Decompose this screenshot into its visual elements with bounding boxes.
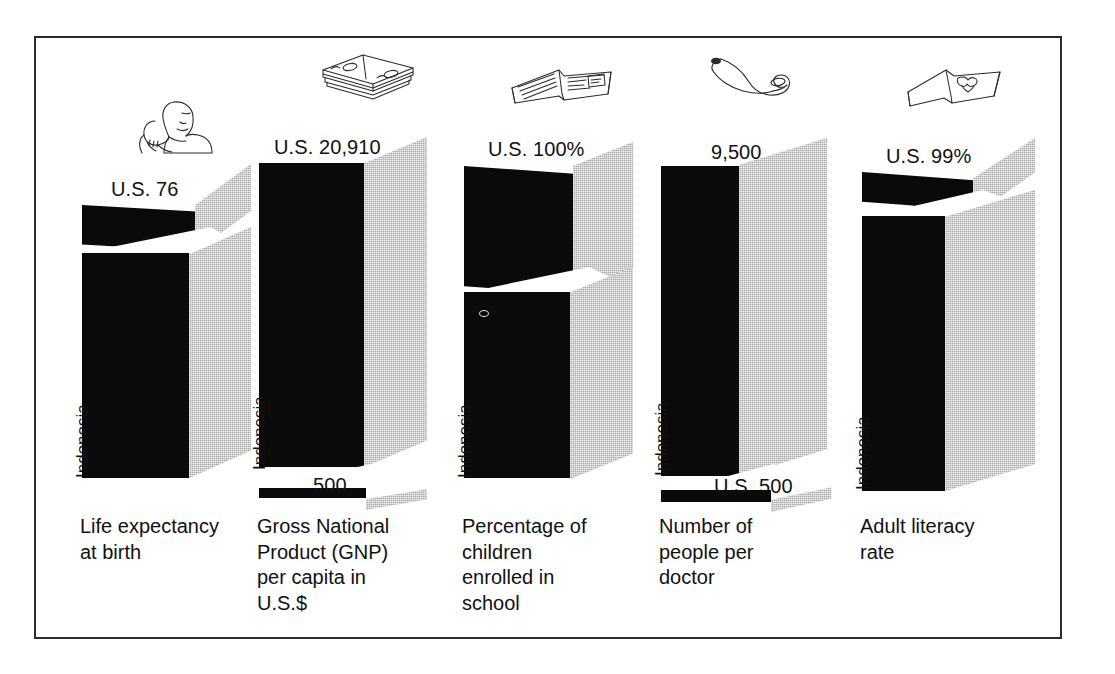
us-value-label: U.S. 20,910 — [274, 137, 381, 157]
indonesia-value-label: 9,500 — [711, 142, 762, 162]
us-value-label: U.S. 100% — [488, 139, 585, 159]
caption-adult-literacy: Adult literacy rate — [860, 514, 1050, 565]
bar-group-life-expectancy: U.S. 76 62 Indonesia Life expectancy at … — [44, 38, 244, 641]
speck-artifact — [479, 310, 489, 317]
stethoscope-icon — [699, 50, 819, 112]
chart-plot-area: U.S. 76 62 Indonesia Life expectancy at … — [36, 38, 1064, 641]
chart-frame: U.S. 76 62 Indonesia Life expectancy at … — [34, 36, 1062, 639]
indonesia-side-label: Indonesia — [653, 402, 670, 476]
indonesia-side-label: Indonesia — [456, 404, 473, 478]
bar-group-adult-literacy: U.S. 99% 84% Indonesia Adult literacy ra… — [824, 38, 1034, 641]
us-value-label: U.S. 99% — [886, 146, 971, 166]
book-with-heart-icon — [896, 58, 1016, 120]
caption-gnp: Gross National Product (GNP) per capita … — [257, 514, 452, 616]
bar-group-gnp: U.S. 20,910 Indonesia 500 Gross National… — [221, 38, 431, 641]
open-book-icon — [504, 56, 624, 118]
indonesia-side-label: Indonesia — [251, 396, 268, 470]
indonesia-value-label: 500 — [313, 475, 347, 495]
indonesia-side-label: Indonesia — [74, 404, 91, 478]
us-value-label: U.S. 76 — [111, 179, 178, 199]
caption-people-per-doctor: Number of people per doctor — [659, 514, 849, 591]
bar-group-children-enrolled: U.S. 100% 64% Indonesia Percentage of ch… — [426, 38, 626, 641]
us-value-label: U.S. 500 — [714, 476, 793, 496]
bar-group-people-per-doctor: 9,500 Indonesia U.S. 500 Number of peopl… — [621, 38, 831, 641]
indonesia-side-label: Indonesia — [854, 416, 871, 490]
money-stack-icon — [307, 46, 427, 108]
